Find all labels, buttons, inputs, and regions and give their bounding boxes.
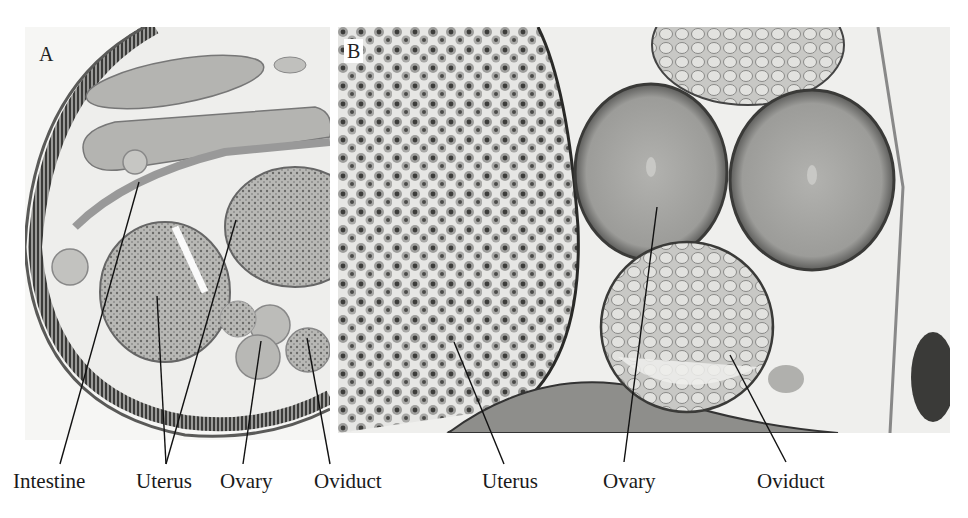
label-uterus-b: Uterus xyxy=(482,469,538,494)
label-ovary-a: Ovary xyxy=(220,469,272,494)
label-ovary-b: Ovary xyxy=(603,469,655,494)
panel-a-illustration xyxy=(25,27,330,440)
label-oviduct-a: Oviduct xyxy=(314,469,382,494)
label-oviduct-b: Oviduct xyxy=(757,469,825,494)
label-intestine: Intestine xyxy=(13,469,85,494)
panel-letter-b: B xyxy=(344,39,363,63)
panel-a-micrograph: A xyxy=(25,27,330,440)
panel-letter-a: A xyxy=(39,43,53,66)
label-uterus-a: Uterus xyxy=(136,469,192,494)
panel-b-illustration xyxy=(338,27,950,433)
panel-b-micrograph: B xyxy=(338,27,950,433)
